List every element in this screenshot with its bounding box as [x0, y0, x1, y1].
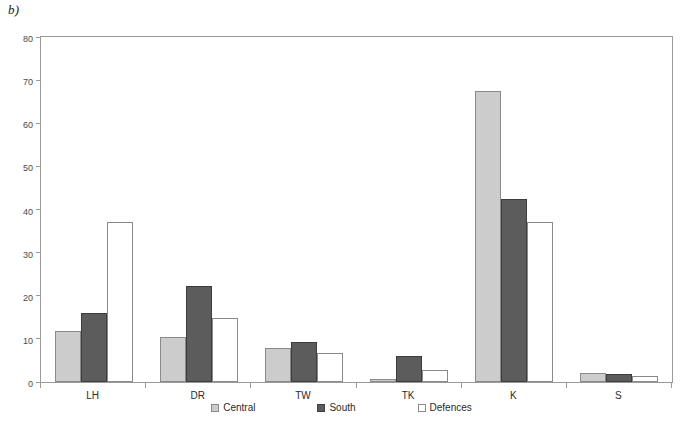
y-axis-tick: 70	[0, 74, 40, 86]
y-axis-tick: 50	[0, 160, 40, 172]
bars-canvas	[41, 37, 672, 382]
panel-label: b)	[8, 2, 19, 18]
y-axis-tick: 30	[0, 247, 40, 259]
y-axis-tick-label: 0	[28, 378, 40, 390]
plot-area	[40, 36, 673, 383]
y-axis-tick: 0	[0, 376, 40, 388]
x-axis-tick-mark	[250, 383, 251, 388]
y-axis-tick-label: 30	[23, 249, 40, 261]
bar-group-dr	[160, 37, 238, 382]
y-axis-tick: 10	[0, 333, 40, 345]
bar-s-central	[580, 373, 606, 382]
y-axis-tick-label: 70	[23, 76, 40, 88]
bar-tw-central	[265, 348, 291, 383]
y-axis-tick: 80	[0, 31, 40, 43]
y-axis-tick: 60	[0, 117, 40, 129]
bar-group-tk	[370, 37, 448, 382]
bar-tw-south	[291, 342, 317, 382]
legend-item-label: Central	[223, 402, 255, 413]
bar-s-defences	[632, 376, 658, 382]
y-axis-tick: 20	[0, 290, 40, 302]
bar-lh-defences	[107, 222, 133, 382]
x-axis-label-tw: TW	[250, 390, 355, 401]
defences-swatch-icon	[418, 404, 426, 412]
bar-group-tw	[265, 37, 343, 382]
bar-lh-south	[81, 313, 107, 382]
central-swatch-icon	[211, 404, 219, 412]
x-axis-label-k: K	[461, 390, 566, 401]
bar-group-s	[580, 37, 658, 382]
x-axis-label-dr: DR	[145, 390, 250, 401]
bar-dr-defences	[212, 318, 238, 382]
legend-item-defences: Defences	[418, 402, 472, 413]
y-axis-tick-label: 50	[23, 162, 40, 174]
x-axis-label-lh: LH	[40, 390, 145, 401]
y-axis-tick-label: 80	[23, 33, 40, 45]
y-axis: 01020304050607080	[0, 30, 40, 390]
bar-tk-defences	[422, 370, 448, 382]
bar-k-defences	[527, 222, 553, 382]
y-axis-tick-label: 20	[23, 292, 40, 304]
chart-legend: CentralSouthDefences	[0, 402, 683, 413]
bar-s-south	[606, 374, 632, 382]
bar-chart-figure: b) 01020304050607080 LHDRTWTKKS CentralS…	[0, 0, 683, 421]
x-axis-tick-mark	[356, 383, 357, 388]
x-axis-tick-mark	[145, 383, 146, 388]
x-axis-label-tk: TK	[356, 390, 461, 401]
legend-item-central: Central	[211, 402, 255, 413]
bar-tk-central	[370, 379, 396, 382]
south-swatch-icon	[317, 404, 325, 412]
y-axis-tick-label: 60	[23, 119, 40, 131]
bar-lh-central	[55, 331, 81, 382]
bar-tw-defences	[317, 353, 343, 382]
bar-group-k	[475, 37, 553, 382]
y-axis-tick: 40	[0, 204, 40, 216]
bar-k-central	[475, 91, 501, 382]
bar-dr-south	[186, 286, 212, 382]
x-axis-tick-mark	[566, 383, 567, 388]
bar-dr-central	[160, 337, 186, 382]
x-axis-tick-mark	[671, 383, 672, 388]
y-axis-tick-label: 40	[23, 206, 40, 218]
x-axis-tick-mark	[461, 383, 462, 388]
bar-k-south	[501, 199, 527, 382]
x-axis-tick-mark	[40, 383, 41, 388]
legend-item-label: Defences	[430, 402, 472, 413]
bar-tk-south	[396, 356, 422, 382]
bar-group-lh	[55, 37, 133, 382]
legend-item-label: South	[329, 402, 355, 413]
y-axis-tick-label: 10	[23, 335, 40, 347]
legend-item-south: South	[317, 402, 355, 413]
x-axis-label-s: S	[566, 390, 671, 401]
